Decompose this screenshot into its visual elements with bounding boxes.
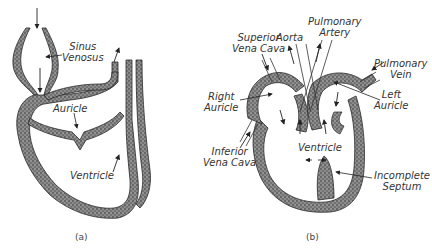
label-line: Auricle	[204, 102, 239, 113]
caption-b: (b)	[306, 232, 319, 242]
label-line: Inferior	[203, 146, 256, 157]
incomplete-septum	[317, 156, 334, 200]
label-auricle-a: Auricle	[53, 103, 88, 114]
label-line: Septum	[374, 181, 430, 192]
label-inferior-vena-cava: Inferior Vena Cava	[203, 146, 256, 168]
diagram-canvas	[0, 0, 432, 252]
panel-b-heart	[240, 40, 384, 212]
label-line: Pulmonary	[308, 16, 362, 27]
arrow-auricle-pointer	[74, 113, 77, 128]
label-line: Vein	[374, 69, 428, 80]
sinus-venosus-wall-left	[13, 28, 38, 95]
arrow-aorta-out	[289, 46, 294, 64]
label-line: Auricle	[374, 100, 409, 111]
caption-a: (a)	[75, 232, 88, 242]
label-sinus-venosus: Sinus Venosus	[62, 41, 104, 63]
left-auricle-wall	[308, 73, 377, 130]
label-line: Vena Cava	[232, 43, 285, 54]
label-line: Vena Cava	[203, 157, 256, 168]
label-line: Left	[374, 89, 409, 100]
arrow-outflow-top	[114, 48, 119, 62]
label-line: Sinus	[62, 41, 104, 52]
arrow-ra-to-ventricle	[280, 110, 284, 124]
label-line: Artery	[308, 27, 362, 38]
interauricular-septum	[294, 94, 308, 132]
label-line: Venosus	[62, 52, 104, 63]
label-right-auricle: Right Auricle	[204, 91, 239, 113]
valve-flap-left	[332, 112, 344, 134]
label-left-auricle: Left Auricle	[374, 89, 409, 111]
label-incomplete-septum: Incomplete Septum	[374, 170, 430, 192]
label-line: Incomplete	[374, 170, 430, 181]
label-ventricle-b: Ventricle	[298, 142, 342, 153]
arrow-ventricle-up-2	[324, 120, 326, 134]
label-aorta: Aorta	[276, 32, 303, 43]
auriculo-ventricular-floor	[28, 112, 124, 150]
label-pulmonary-vein: Pulmonary Vein	[374, 58, 428, 80]
label-line: Pulmonary	[374, 58, 428, 69]
label-line: Right	[204, 91, 239, 102]
arrow-pulm-artery-out	[316, 44, 320, 62]
label-pulmonary-artery: Pulmonary Artery	[308, 16, 362, 38]
heart-comparison-diagram: Sinus Venosus Auricle Ventricle (a) Supe…	[0, 0, 432, 252]
arrow-la-to-ventricle	[336, 92, 338, 106]
label-ventricle-a: Ventricle	[70, 170, 114, 181]
sinus-venosus-wall-right	[42, 28, 58, 95]
